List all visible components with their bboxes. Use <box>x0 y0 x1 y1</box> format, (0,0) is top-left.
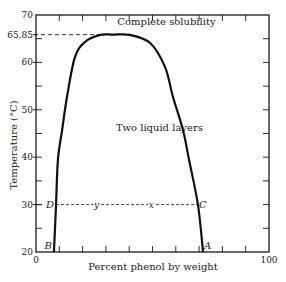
y-tick-label: 30 <box>22 200 34 210</box>
tie-point-label-x: x <box>149 200 154 210</box>
plot-frame <box>36 15 269 252</box>
point-label-c: C <box>199 199 207 210</box>
y-tick-label: 20 <box>22 247 34 257</box>
solubility-curve <box>54 34 203 252</box>
point-label-d: D <box>45 199 54 210</box>
y-tick-label: 60 <box>22 57 34 67</box>
y-tick-label: 50 <box>22 105 34 115</box>
axis-ticks <box>33 15 269 252</box>
y-tick-label: 70 <box>22 10 34 20</box>
tick-labels: 203040506065.85700100 <box>7 10 278 265</box>
curve-layer <box>34 34 203 252</box>
point-label-b: B <box>44 240 52 251</box>
phase-diagram-chart: 203040506065.85700100 DCyxBAComplete sol… <box>0 0 286 282</box>
point-label-a: A <box>203 240 211 251</box>
y-tick-label: 40 <box>22 152 34 162</box>
plot-border <box>36 15 269 252</box>
tie-point-label-y: y <box>93 200 100 210</box>
x-tick-label: 100 <box>260 255 277 265</box>
region-label-complete-solubility: Complete solubility <box>117 16 216 27</box>
y-tick-label: 65.85 <box>7 30 33 40</box>
annotations: DCyxBAComplete solubilityTwo liquid laye… <box>44 16 216 251</box>
x-axis-title: Percent phenol by weight <box>88 261 218 272</box>
x-tick-label: 0 <box>33 255 39 265</box>
region-label-two-liquid-layers: Two liquid layers <box>116 122 203 133</box>
y-axis-title: Temperature (°C) <box>8 100 19 189</box>
